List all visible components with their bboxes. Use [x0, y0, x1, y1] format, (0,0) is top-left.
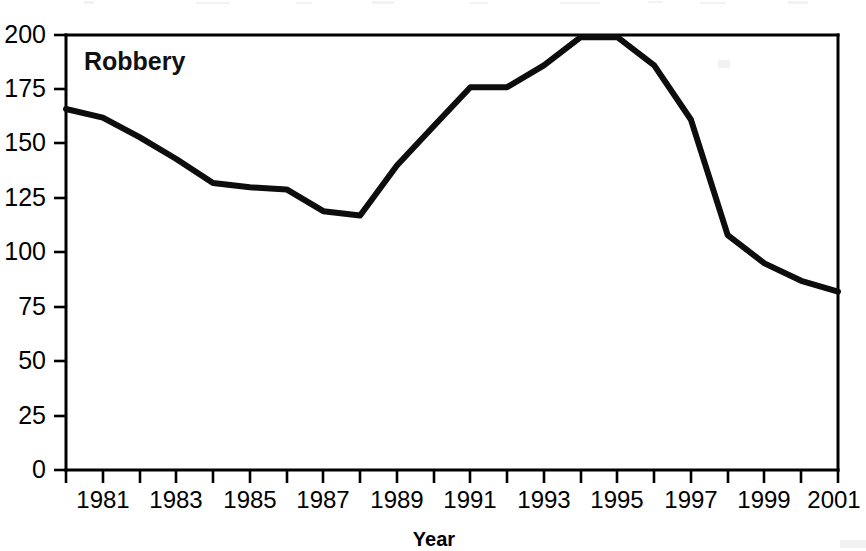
y-tick-label: 175 — [4, 74, 46, 102]
x-axis-ticks — [66, 470, 838, 483]
y-tick-label: 150 — [4, 128, 46, 156]
x-axis-tick-labels: 1981 1983 1985 1987 1989 1991 1993 1995 … — [76, 486, 860, 513]
robbery-rate-chart-figure: 200 175 150 125 100 75 50 25 0 — [0, 0, 866, 551]
series-label-robbery: Robbery — [84, 47, 186, 75]
y-tick-label: 50 — [18, 346, 46, 374]
y-tick-label: 0 — [32, 455, 46, 483]
y-tick-label: 125 — [4, 183, 46, 211]
robbery-data-line — [66, 37, 838, 291]
x-tick-label: 1991 — [443, 486, 496, 513]
x-tick-label: 1997 — [664, 486, 717, 513]
x-tick-label: 1993 — [517, 486, 570, 513]
x-tick-label: 1999 — [737, 486, 790, 513]
x-tick-label: 1985 — [223, 486, 276, 513]
y-tick-label: 25 — [18, 401, 46, 429]
x-tick-label: 1981 — [76, 486, 129, 513]
x-tick-label: 1995 — [590, 486, 643, 513]
y-tick-label: 200 — [4, 20, 46, 48]
y-tick-label: 100 — [4, 237, 46, 265]
x-tick-label: 1983 — [149, 486, 202, 513]
y-axis-tick-labels: 200 175 150 125 100 75 50 25 0 — [4, 20, 46, 483]
x-tick-label: 1987 — [296, 486, 349, 513]
plot-frame — [66, 35, 838, 470]
y-axis-ticks — [54, 35, 66, 470]
y-tick-label: 75 — [18, 292, 46, 320]
x-tick-label: 1989 — [370, 486, 423, 513]
scan-artifact-row — [84, 1, 866, 548]
x-tick-label: 2001 — [807, 486, 860, 513]
line-chart-canvas: 200 175 150 125 100 75 50 25 0 — [0, 0, 866, 551]
x-axis-title: Year — [413, 528, 455, 550]
